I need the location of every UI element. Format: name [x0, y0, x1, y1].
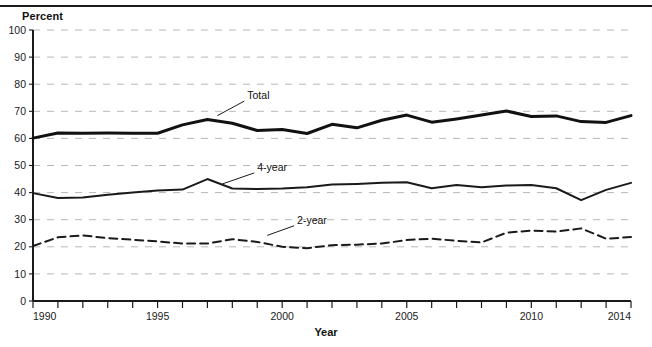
series-line-total [33, 111, 631, 138]
x-tick-label: 1990 [33, 310, 57, 322]
y-tick-label: 70 [14, 105, 26, 117]
gridlines [33, 30, 631, 274]
y-tick-label: 40 [14, 186, 26, 198]
y-tick-label: 20 [14, 240, 26, 252]
annotation-leader-line [222, 173, 254, 184]
y-tick-label: 90 [14, 51, 26, 63]
x-tick-label: 2005 [395, 310, 419, 322]
y-tick-label: 100 [8, 24, 26, 36]
line-chart-svg: 0102030405060708090100 19901995200020052… [0, 0, 652, 347]
series-label-4-year: 4-year [257, 161, 287, 173]
y-tick-label: 60 [14, 132, 26, 144]
annotation-leader-line [267, 226, 294, 236]
y-tick-label: 0 [20, 295, 26, 307]
x-axis-title: Year [0, 326, 652, 338]
y-axis-tick-labels: 0102030405060708090100 [8, 24, 26, 307]
series-line-4-year [33, 179, 631, 200]
series-line-2-year [33, 228, 631, 248]
x-tick-label: 2010 [520, 310, 544, 322]
x-tick-label: 2000 [270, 310, 294, 322]
series-label-total: Total [247, 89, 269, 101]
x-tick-label: 2014 [608, 310, 632, 322]
chart-figure: Percent 0102030405060708090100 199019952… [0, 0, 652, 347]
annotation-leader-line [217, 101, 244, 116]
y-tick-label: 50 [14, 159, 26, 171]
y-tick-label: 10 [14, 268, 26, 280]
x-axis-tick-marks [33, 301, 631, 308]
series-label-2-year: 2-year [297, 214, 327, 226]
x-axis-tick-labels: 199019952000200520102014 [33, 310, 631, 322]
data-series-lines [33, 111, 631, 248]
x-tick-label: 1995 [146, 310, 170, 322]
y-tick-label: 30 [14, 213, 26, 225]
y-tick-label: 80 [14, 78, 26, 90]
